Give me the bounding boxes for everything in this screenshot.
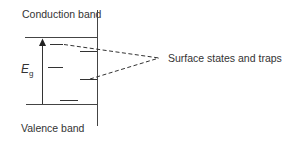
- leader-line-dashed: [90, 58, 159, 79]
- band-diagram-graphic: [0, 0, 291, 144]
- leader-line-dashed: [64, 45, 159, 59]
- arrow-head-icon: [39, 39, 46, 47]
